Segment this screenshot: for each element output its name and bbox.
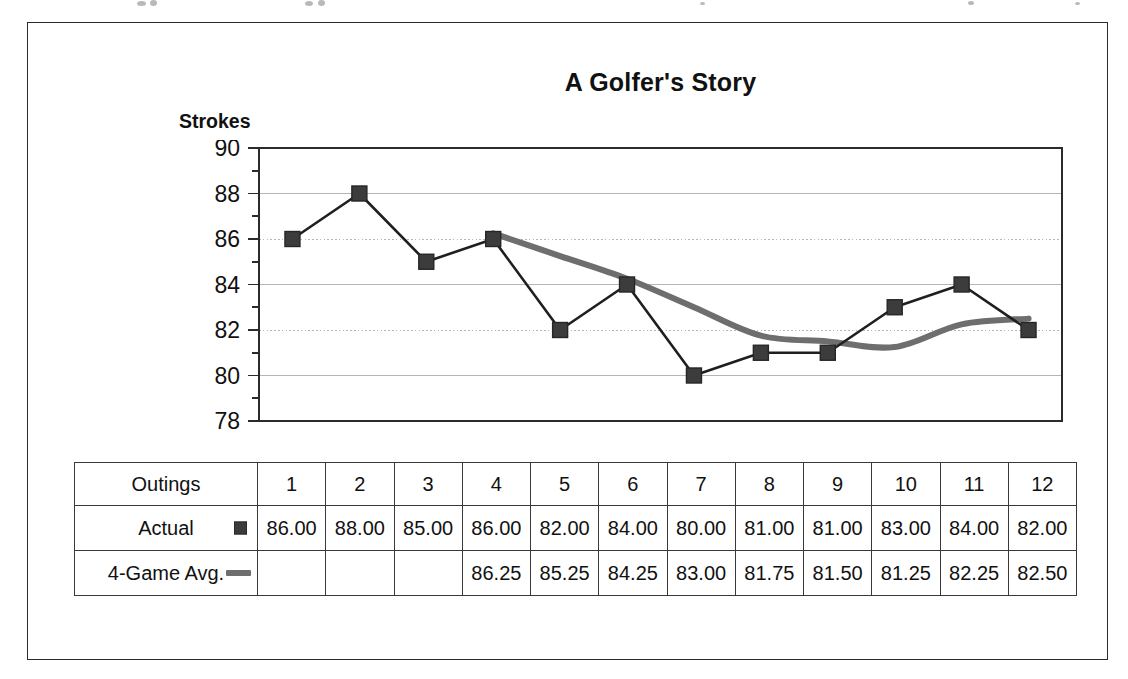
- data-point-marker: [954, 277, 969, 292]
- table-cell: 84.00: [940, 506, 1008, 551]
- plot-area: 78808284868890: [180, 140, 1080, 440]
- table-cell: 85.25: [531, 551, 599, 596]
- table-cell: 80.00: [667, 506, 735, 551]
- data-point-marker: [820, 345, 835, 360]
- table-cell: 82.50: [1008, 551, 1076, 596]
- chart-title: A Golfer's Story: [259, 68, 1062, 97]
- table-cell: 82.00: [1008, 506, 1076, 551]
- table-cell: [326, 551, 394, 596]
- table-body: Actual86.0088.0085.0086.0082.0084.0080.0…: [75, 506, 1077, 596]
- table-row: Actual86.0088.0085.0086.0082.0084.0080.0…: [75, 506, 1077, 551]
- table-column-header-10: 10: [872, 463, 940, 506]
- line-marker-icon: [226, 570, 251, 576]
- y-tick-label-80: 80: [214, 363, 240, 389]
- data-table-container: Outings 123456789101112 Actual86.0088.00…: [74, 462, 1063, 596]
- table-column-header-11: 11: [940, 463, 1008, 506]
- table-corner-header: Outings: [75, 463, 258, 506]
- table-header-row: Outings 123456789101112: [75, 463, 1077, 506]
- table-column-header-12: 12: [1008, 463, 1076, 506]
- table-column-header-3: 3: [394, 463, 462, 506]
- series-name: Actual: [138, 517, 194, 539]
- table-cell: 81.25: [872, 551, 940, 596]
- table-column-header-5: 5: [531, 463, 599, 506]
- data-point-marker: [686, 368, 701, 383]
- y-tick-label-86: 86: [214, 226, 240, 252]
- data-point-marker: [419, 254, 434, 269]
- table-column-header-1: 1: [258, 463, 326, 506]
- table-cell: 81.00: [804, 506, 872, 551]
- table-cell: 86.00: [258, 506, 326, 551]
- outings-data-table: Outings 123456789101112 Actual86.0088.00…: [74, 462, 1077, 596]
- table-row-label-actual: Actual: [75, 506, 258, 551]
- data-point-marker: [753, 345, 768, 360]
- table-cell: 88.00: [326, 506, 394, 551]
- y-tick-label-90: 90: [214, 140, 240, 161]
- table-row-label-four-game-avg: 4-Game Avg.: [75, 551, 258, 596]
- data-point-marker: [285, 232, 300, 247]
- table-column-header-6: 6: [599, 463, 667, 506]
- table-cell: 81.50: [804, 551, 872, 596]
- table-cell: 82.00: [531, 506, 599, 551]
- y-tick-label-82: 82: [214, 317, 240, 343]
- table-cell: 86.00: [462, 506, 530, 551]
- y-tick-label-88: 88: [214, 181, 240, 207]
- y-tick-label-84: 84: [214, 272, 240, 298]
- data-point-marker: [352, 186, 367, 201]
- table-cell: [258, 551, 326, 596]
- table-column-header-4: 4: [462, 463, 530, 506]
- table-column-header-7: 7: [667, 463, 735, 506]
- series-name: 4-Game Avg.: [108, 562, 224, 584]
- y-tick-label-78: 78: [214, 408, 240, 434]
- table-cell: 86.25: [462, 551, 530, 596]
- data-point-marker: [486, 232, 501, 247]
- table-column-header-8: 8: [735, 463, 803, 506]
- table-header: Outings 123456789101112: [75, 463, 1077, 506]
- table-cell: 81.75: [735, 551, 803, 596]
- table-cell: 84.25: [599, 551, 667, 596]
- table-row: 4-Game Avg.86.2585.2584.2583.0081.7581.5…: [75, 551, 1077, 596]
- square-marker-icon: [234, 522, 247, 535]
- table-cell: 85.00: [394, 506, 462, 551]
- table-cell: 81.00: [735, 506, 803, 551]
- data-point-marker: [1021, 323, 1036, 338]
- table-cell: 83.00: [667, 551, 735, 596]
- table-column-header-9: 9: [804, 463, 872, 506]
- table-cell: 82.25: [940, 551, 1008, 596]
- table-cell: 83.00: [872, 506, 940, 551]
- data-point-marker: [620, 277, 635, 292]
- data-point-marker: [887, 300, 902, 315]
- y-axis-title: Strokes: [179, 110, 251, 133]
- table-cell: [394, 551, 462, 596]
- table-cell: 84.00: [599, 506, 667, 551]
- series-line-four-game-avg: [493, 233, 1028, 347]
- table-column-header-2: 2: [326, 463, 394, 506]
- data-point-marker: [553, 323, 568, 338]
